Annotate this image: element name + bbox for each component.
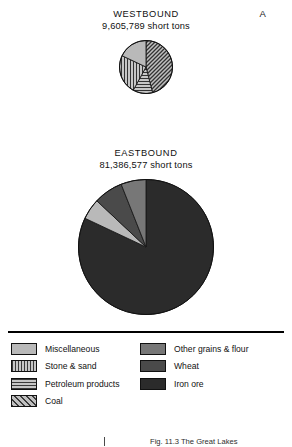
westbound-chart-title: WESTBOUND (0, 8, 292, 20)
legend-swatch-wheat (140, 360, 166, 372)
legend-label-stone-sand: Stone & sand (45, 361, 97, 371)
eastbound-chart-subtitle: 81,386,577 short tons (0, 159, 292, 171)
legend-label-coal: Coal (45, 396, 63, 406)
legend-item-petroleum-products: Petroleum products (11, 375, 141, 393)
legend-swatch-miscellaneous (11, 343, 37, 355)
eastbound-chart-title: EASTBOUND (0, 147, 292, 159)
legend-label-miscellaneous: Miscellaneous (45, 344, 99, 354)
legend-label-wheat: Wheat (174, 361, 199, 371)
legend-label-other-grains-flour: Other grains & flour (174, 344, 249, 354)
eastbound-pie-chart (77, 178, 215, 316)
westbound-chart-block: WESTBOUND 9,605,789 short tons (0, 8, 292, 95)
legend: Miscellaneous Stone & sand Petroleum pro… (0, 340, 292, 418)
legend-item-stone-sand: Stone & sand (11, 358, 141, 376)
westbound-chart-subtitle: 9,605,789 short tons (0, 20, 292, 32)
westbound-pie-wrap (0, 39, 292, 95)
legend-label-iron-ore: Iron ore (174, 379, 204, 389)
legend-item-other-grains-flour: Other grains & flour (140, 340, 288, 358)
legend-swatch-other-grains-flour (140, 343, 166, 355)
legend-label-petroleum-products: Petroleum products (45, 379, 120, 389)
legend-swatch-stone-sand (11, 360, 37, 372)
legend-divider-rule (8, 331, 284, 333)
legend-swatch-petroleum-products (11, 378, 37, 390)
legend-item-wheat: Wheat (140, 358, 288, 376)
legend-swatch-coal (11, 395, 37, 407)
legend-swatch-iron-ore (140, 378, 166, 390)
legend-item-coal: Coal (11, 393, 141, 411)
eastbound-pie-wrap (0, 178, 292, 316)
figure-panel: A WESTBOUND 9,605,789 short tons EASTBOU… (0, 0, 292, 447)
legend-column-left: Miscellaneous Stone & sand Petroleum pro… (11, 340, 141, 410)
caption-tick-mark (104, 437, 105, 446)
figure-caption-text: Fig. 11.3 The Great Lakes (150, 437, 238, 446)
figure-caption-clipped: Fig. 11.3 The Great Lakes (0, 437, 292, 447)
westbound-pie-chart (118, 39, 174, 95)
legend-item-miscellaneous: Miscellaneous (11, 340, 141, 358)
legend-column-right: Other grains & flour Wheat Iron ore (140, 340, 288, 393)
eastbound-chart-block: EASTBOUND 81,386,577 short tons (0, 147, 292, 316)
legend-item-iron-ore: Iron ore (140, 375, 288, 393)
